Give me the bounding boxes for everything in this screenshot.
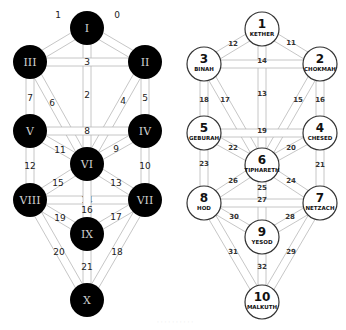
node-name: NETZACH — [306, 205, 335, 211]
path-label: 11 — [54, 145, 65, 155]
path-label: 20 — [53, 247, 65, 257]
node-IX: IX — [70, 217, 104, 251]
node-number: 5 — [200, 121, 208, 135]
node-number: 1 — [258, 17, 266, 31]
node-name: MALKUTH — [247, 304, 278, 310]
path-8: 8 — [30, 126, 145, 136]
path-label: 17 — [110, 212, 121, 222]
node-name: BINAH — [194, 66, 214, 72]
path-label: 6 — [49, 98, 55, 108]
path-label: 17 — [220, 96, 230, 104]
path-label: 14 — [257, 57, 267, 65]
path-label: 5 — [142, 93, 148, 103]
node-name: HOD — [197, 205, 211, 211]
node-2: 2CHOKMAH — [303, 47, 337, 81]
node-10: 10MALKUTH — [245, 285, 279, 319]
node-numeral: VIII — [19, 194, 41, 207]
path-label: 3 — [84, 57, 90, 67]
path-label: 31 — [228, 248, 238, 256]
path-label: 25 — [257, 184, 267, 192]
path-2: 2 — [83, 28, 91, 164]
node-5: 5GEBURAH — [187, 116, 221, 150]
path-label: 13 — [110, 178, 121, 188]
diagram-canvas: 0123456789101112131415161718192021 11121… — [0, 0, 346, 330]
path-label: 7 — [27, 93, 33, 103]
path-label: 8 — [84, 126, 90, 136]
path-label: 0 — [114, 10, 120, 20]
path-label: 26 — [228, 177, 238, 185]
node-number: 10 — [254, 290, 271, 304]
path-label: 9 — [113, 144, 119, 154]
node-name: CHESED — [308, 135, 333, 141]
node-X: X — [70, 283, 104, 317]
path-label: 22 — [228, 144, 238, 152]
node-III: III — [13, 45, 47, 79]
path-label: 30 — [229, 213, 239, 221]
node-number: 3 — [200, 52, 208, 66]
node-number: 2 — [316, 52, 324, 66]
node-name: KETHER — [250, 31, 275, 37]
node-II: II — [128, 45, 162, 79]
node-number: 8 — [200, 191, 208, 205]
node-numeral: VII — [136, 194, 154, 207]
path-3: 3 — [30, 57, 145, 67]
node-number: 6 — [258, 153, 266, 167]
path-label: 10 — [139, 161, 151, 171]
node-1: 1KETHER — [245, 12, 279, 46]
node-V: V — [13, 114, 47, 148]
node-8: 8HOD — [187, 186, 221, 220]
path-label: 4 — [120, 96, 126, 106]
path-label: 20 — [286, 144, 296, 152]
path-label: 16 — [81, 205, 93, 215]
tree-of-life-diagram: 0123456789101112131415161718192021 11121… — [0, 0, 346, 330]
path-13: 13 — [257, 29, 267, 165]
node-7: 7NETZACH — [303, 186, 337, 220]
path-label: 21 — [315, 161, 325, 169]
node-name: TIPHARETH — [244, 167, 279, 173]
path-label: 2 — [84, 90, 90, 100]
node-IV: IV — [128, 114, 162, 148]
node-numeral: VI — [80, 158, 93, 171]
path-label: 1 — [55, 10, 61, 20]
path-label: 18 — [199, 96, 209, 104]
caption: · · · · · · · · · · — [157, 318, 193, 325]
path-label: 15 — [52, 178, 63, 188]
path-label: 15 — [293, 96, 303, 104]
node-name: CHOKMAH — [304, 66, 336, 72]
path-label: 21 — [81, 262, 92, 272]
path-label: 23 — [199, 160, 209, 168]
path-label: 19 — [257, 127, 267, 135]
node-6: 6TIPHARETH — [244, 148, 279, 182]
node-numeral: I — [85, 22, 89, 35]
path-label: 16 — [315, 96, 325, 104]
node-VII: VII — [128, 183, 162, 217]
path-label: 24 — [286, 177, 296, 185]
path-label: 27 — [257, 196, 267, 204]
node-numeral: III — [23, 56, 36, 69]
path-label: 12 — [24, 161, 35, 171]
path-label: 19 — [54, 213, 66, 223]
node-VI: VI — [70, 147, 104, 181]
node-number: 4 — [316, 121, 324, 135]
node-number: 9 — [258, 225, 266, 239]
path-label: 18 — [111, 247, 123, 257]
node-number: 7 — [316, 191, 324, 205]
node-I: I — [70, 11, 104, 45]
path-label: 13 — [257, 90, 267, 98]
node-numeral: IX — [81, 228, 93, 241]
node-VIII: VIII — [13, 183, 47, 217]
path-label: 28 — [285, 213, 295, 221]
path-label: 29 — [286, 248, 296, 256]
node-numeral: IV — [139, 125, 152, 138]
node-9: 9YESOD — [245, 220, 279, 254]
path-label: 12 — [228, 40, 238, 48]
node-name: GEBURAH — [189, 135, 219, 141]
node-3: 3BINAH — [187, 47, 221, 81]
node-numeral: II — [141, 56, 150, 69]
node-name: YESOD — [251, 239, 273, 245]
node-numeral: V — [25, 125, 35, 138]
path-label: 32 — [257, 263, 267, 271]
node-numeral: X — [83, 294, 91, 307]
node-4: 4CHESED — [303, 116, 337, 150]
path-label: 11 — [286, 39, 296, 47]
